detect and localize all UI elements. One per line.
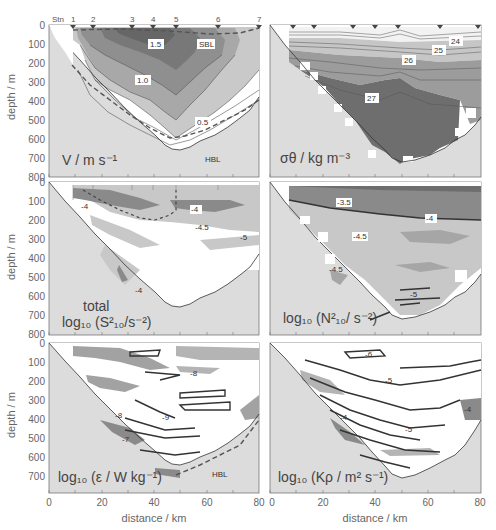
svg-text:300: 300 xyxy=(28,234,45,245)
contour-label-eps-4: -7 xyxy=(122,435,130,444)
svg-text:0: 0 xyxy=(46,497,52,508)
panel-shear: -4 -4 -4.5 -5 -4 total log₁₀ (S²₁₀/s⁻²) xyxy=(49,182,259,335)
contour-label-25: 25 xyxy=(434,46,443,55)
y-axis-title-row1: depth / m xyxy=(5,74,17,120)
svg-text:200: 200 xyxy=(28,215,45,226)
svg-text:40: 40 xyxy=(369,497,381,508)
svg-text:80: 80 xyxy=(474,497,486,508)
panel-label-density: σθ / kg m⁻³ xyxy=(280,150,350,166)
svg-text:20: 20 xyxy=(317,497,329,508)
svg-text:600: 600 xyxy=(28,291,45,302)
y-axis-row3: 0 100 200 300 400 500 600 700 xyxy=(28,338,45,482)
contour-label-shear-4: -5 xyxy=(240,233,248,242)
contour-label-strat-1: -3.5 xyxy=(337,198,351,207)
contour-label-kr-4: -4 xyxy=(340,413,348,422)
svg-text:300: 300 xyxy=(28,395,45,406)
x-axis-left: 0 20 40 60 80 xyxy=(46,497,265,508)
station-1-label: 1 xyxy=(71,15,76,24)
x-axis-title-right: distance / km xyxy=(343,512,408,524)
x-axis-right: 0 20 40 60 80 xyxy=(269,497,486,508)
svg-text:40: 40 xyxy=(148,497,160,508)
contour-label-strat-5: -5 xyxy=(410,290,418,299)
svg-text:600: 600 xyxy=(28,452,45,463)
contour-label-27: 27 xyxy=(367,94,376,103)
contour-label-kr-1: -6 xyxy=(365,350,373,359)
sbl-label: SBL xyxy=(199,40,215,49)
svg-text:500: 500 xyxy=(28,115,45,126)
panel-diffusivity: -6 -5 -5 -4 -4 log₁₀ (Kρ / m² s⁻¹) xyxy=(270,343,481,493)
contour-label-eps-3: -9 xyxy=(162,413,170,422)
panel-dissipation: -8 -8 -9 -7 HBL log₁₀ (ε / W kg⁻¹) xyxy=(49,343,259,493)
svg-text:0: 0 xyxy=(39,20,45,31)
panel-velocity: 1.5 1.0 0.5 SBL HBL V / m s⁻¹ Stn 1 2 3 … xyxy=(49,15,262,177)
station-4-label: 4 xyxy=(151,15,156,24)
svg-text:200: 200 xyxy=(28,58,45,69)
contour-label-kr-2: -5 xyxy=(385,376,393,385)
figure-canvas: 1.5 1.0 0.5 SBL HBL V / m s⁻¹ Stn 1 2 3 … xyxy=(0,0,496,530)
contour-label-0-5: 0.5 xyxy=(197,118,209,127)
station-2-label: 2 xyxy=(91,15,96,24)
y-axis-title-row3: depth / m xyxy=(5,392,17,438)
svg-text:200: 200 xyxy=(28,376,45,387)
svg-text:0: 0 xyxy=(39,177,45,188)
svg-text:60: 60 xyxy=(422,497,434,508)
svg-text:60: 60 xyxy=(201,497,213,508)
svg-text:100: 100 xyxy=(28,39,45,50)
contour-label-kr-5: -4 xyxy=(464,405,472,414)
svg-text:700: 700 xyxy=(28,471,45,482)
contour-label-shear-3: -4.5 xyxy=(195,223,209,232)
contour-label-shear-1: -4 xyxy=(81,202,89,211)
svg-text:400: 400 xyxy=(28,253,45,264)
contour-label-kr-3: -5 xyxy=(405,425,413,434)
svg-text:300: 300 xyxy=(28,77,45,88)
svg-text:500: 500 xyxy=(28,433,45,444)
contour-label-eps-2: -8 xyxy=(115,411,123,420)
contour-label-24: 24 xyxy=(451,37,460,46)
contour-label-strat-4: -4.5 xyxy=(329,265,343,274)
panel-density: 24 25 26 27 σθ / kg m⁻³ xyxy=(270,25,481,177)
panel-label-velocity: V / m s⁻¹ xyxy=(62,152,118,168)
svg-text:400: 400 xyxy=(28,414,45,425)
y-axis-title-row2: depth / m xyxy=(5,234,17,280)
y-axis-row1: 0 100 200 300 400 500 600 700 800 xyxy=(28,20,45,183)
station-5-label: 5 xyxy=(174,15,179,24)
station-3-label: 3 xyxy=(130,15,135,24)
svg-text:700: 700 xyxy=(28,153,45,164)
svg-text:0: 0 xyxy=(269,497,275,508)
station-6-label: 6 xyxy=(216,15,221,24)
contour-label-1-0: 1.0 xyxy=(137,76,149,85)
contour-label-strat-2: -4 xyxy=(426,214,434,223)
hbl-label: HBL xyxy=(205,155,221,164)
x-axis-title-left: distance / km xyxy=(122,512,187,524)
hbl-label-eps: HBL xyxy=(212,470,228,479)
y-axis-row2: 0 100 200 300 400 500 600 700 800 xyxy=(28,177,45,340)
panel-label-shear-line2: log₁₀ (S²₁₀/s⁻²) xyxy=(62,314,152,330)
panel-label-diffusivity: log₁₀ (Kρ / m² s⁻¹) xyxy=(278,469,388,485)
svg-text:100: 100 xyxy=(28,357,45,368)
contour-label-shear-5: -4 xyxy=(135,286,143,295)
contour-label-1-5: 1.5 xyxy=(150,40,162,49)
svg-text:80: 80 xyxy=(253,497,265,508)
panel-label-dissipation: log₁₀ (ε / W kg⁻¹) xyxy=(58,469,162,485)
panel-label-shear-line1: total xyxy=(83,298,109,314)
panel-stratification: -3.5 -4 -4.5 -4.5 -5 log₁₀ (N²₁₀/ s⁻²) xyxy=(270,182,481,335)
svg-text:400: 400 xyxy=(28,96,45,107)
contour-label-strat-3: -4.5 xyxy=(353,232,367,241)
panel-label-strat: log₁₀ (N²₁₀/ s⁻²) xyxy=(283,310,377,326)
svg-text:600: 600 xyxy=(28,134,45,145)
svg-text:500: 500 xyxy=(28,272,45,283)
station-prefix: Stn xyxy=(52,15,64,24)
contour-label-shear-2: -4 xyxy=(191,205,199,214)
svg-text:700: 700 xyxy=(28,310,45,321)
svg-text:20: 20 xyxy=(96,497,108,508)
svg-text:100: 100 xyxy=(28,196,45,207)
svg-text:0: 0 xyxy=(39,338,45,349)
contour-label-26: 26 xyxy=(404,56,413,65)
station-7-label: 7 xyxy=(257,15,262,24)
contour-label-eps-1: -8 xyxy=(190,369,198,378)
